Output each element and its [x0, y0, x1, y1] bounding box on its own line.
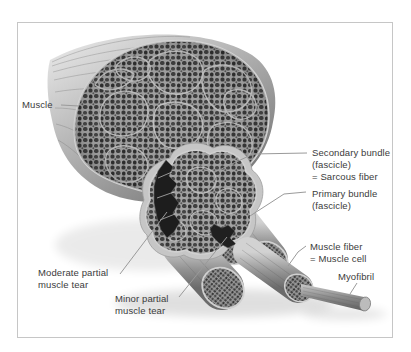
label-muscle-text: Muscle: [22, 99, 53, 110]
label-minor-tear: Minor partial muscle tear: [115, 293, 169, 317]
label-muscle-fiber-line2: = Muscle cell: [310, 253, 366, 265]
label-moderate-tear-line1: Moderate partial: [38, 267, 108, 279]
label-muscle: Muscle: [22, 99, 53, 111]
label-moderate-tear-line2: muscle tear: [38, 279, 108, 291]
label-secondary-bundle: Secondary bundle (fascicle) = Sarcous fi…: [312, 147, 390, 184]
label-secondary-bundle-line3: = Sarcous fiber: [312, 171, 390, 183]
label-secondary-bundle-line2: (fascicle): [312, 159, 390, 171]
label-muscle-fiber: Muscle fiber = Muscle cell: [310, 241, 366, 265]
label-primary-bundle-line1: Primary bundle: [312, 188, 377, 200]
label-myofibril: Myofibril: [338, 271, 374, 283]
label-primary-bundle-line2: (fascicle): [312, 200, 377, 212]
label-minor-tear-line2: muscle tear: [115, 305, 169, 317]
label-secondary-bundle-line1: Secondary bundle: [312, 147, 390, 159]
muscle-fiber-leader: [288, 246, 306, 266]
label-muscle-fiber-line1: Muscle fiber: [310, 241, 366, 253]
label-myofibril-text: Myofibril: [338, 271, 374, 282]
figure-canvas: Muscle Secondary bundle (fascicle) = Sar…: [0, 0, 411, 352]
label-minor-tear-line1: Minor partial: [115, 293, 169, 305]
myofibril-leader: [350, 283, 357, 294]
label-primary-bundle: Primary bundle (fascicle): [312, 188, 377, 212]
label-moderate-tear: Moderate partial muscle tear: [38, 267, 108, 291]
